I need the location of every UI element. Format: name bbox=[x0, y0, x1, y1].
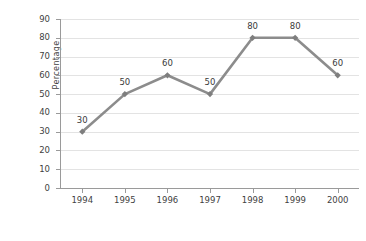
data-point-label: 60 bbox=[150, 59, 184, 68]
line-chart: Percentage 0102030405060708090 199419951… bbox=[0, 0, 366, 241]
data-point-label: 80 bbox=[236, 22, 270, 31]
data-point-label: 50 bbox=[108, 78, 142, 87]
series-line-percentage bbox=[0, 0, 366, 241]
data-point-label: 30 bbox=[65, 116, 99, 125]
data-point-label: 60 bbox=[321, 59, 355, 68]
data-point-label: 80 bbox=[278, 22, 312, 31]
data-point-label: 50 bbox=[193, 78, 227, 87]
